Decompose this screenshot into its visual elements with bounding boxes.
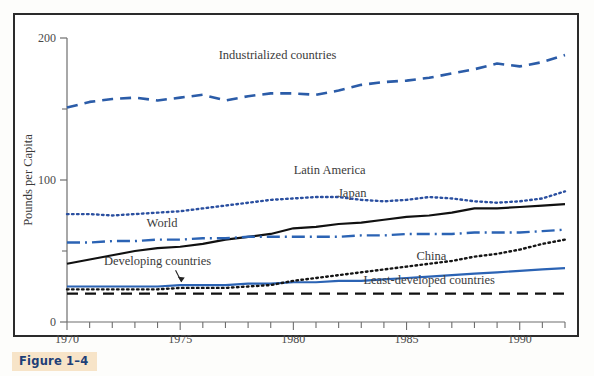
series-label-1: Latin America (294, 163, 366, 177)
series-label-4: Developing countries (104, 254, 211, 268)
x-tick-label: 1975 (168, 332, 192, 346)
series-label-2: Japan (338, 186, 367, 200)
axes-layer: 010020019701975198019851990Pounds per Ca… (21, 31, 565, 346)
figure-container: 010020019701975198019851990Pounds per Ca… (0, 0, 594, 376)
y-tick-label: 100 (38, 173, 56, 187)
series-line-1 (67, 191, 565, 215)
figure-caption: Figure 1–4 (12, 352, 97, 371)
x-tick-label: 1980 (281, 332, 305, 346)
y-tick-label: 200 (38, 31, 56, 45)
series-line-3 (67, 230, 565, 243)
series-label-5: China (417, 249, 447, 263)
x-tick-label: 1985 (395, 332, 419, 346)
series-line-0 (67, 55, 565, 108)
series-label-0: Industrialized countries (219, 48, 337, 62)
y-tick-label: 0 (50, 315, 56, 329)
series-label-arrowhead-4 (178, 277, 185, 282)
series-annotations-layer: Industrialized countriesLatin AmericaJap… (104, 48, 495, 286)
x-tick-label: 1990 (508, 332, 532, 346)
y-axis-title: Pounds per Capita (21, 134, 35, 226)
line-chart: 010020019701975198019851990Pounds per Ca… (0, 0, 594, 376)
x-tick-label: 1970 (55, 332, 79, 346)
series-label-3: World (147, 216, 179, 230)
series-label-6: Least-developed countries (363, 273, 495, 287)
